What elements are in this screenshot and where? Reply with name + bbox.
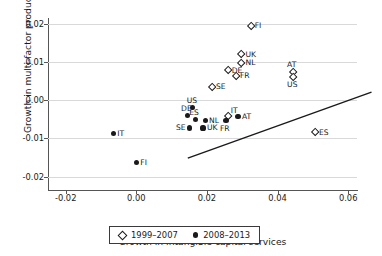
data-point-label: FI [255, 22, 262, 30]
legend-item-1[interactable]: 2008–2013 [193, 230, 250, 240]
data-point-label: US [287, 81, 297, 89]
legend-item-label: 2008–2013 [203, 230, 250, 240]
filled-circle-icon [193, 232, 198, 237]
data-point-label: ES [189, 109, 199, 117]
scatter-chart-figure: Growth in multi-factor productivity 0.02… [0, 0, 382, 256]
data-point-label: FR [240, 72, 250, 80]
filled-circle-icon [200, 125, 205, 130]
gridline-y-0 [48, 24, 357, 25]
chart-legend: 1999–20072008–2013 [109, 226, 260, 244]
data-point-label: IT [231, 107, 238, 115]
y-tick-mark-3 [44, 138, 48, 139]
data-point-label: AT [287, 61, 296, 69]
data-point-label: IT [117, 130, 124, 138]
x-tick-mark-0 [66, 190, 67, 194]
data-point-label: AT [242, 113, 251, 121]
data-point-label: SE [176, 124, 186, 132]
legend-item-0[interactable]: 1999–2007 [119, 230, 178, 240]
legend-item-label: 1999–2007 [131, 230, 178, 240]
y-tick-mark-4 [44, 177, 48, 178]
filled-circle-icon [187, 125, 192, 130]
data-point-label: FI [140, 159, 147, 167]
data-point-label: NL [246, 59, 256, 67]
y-tick-mark-0 [44, 24, 48, 25]
open-diamond-icon [118, 230, 128, 240]
filled-circle-icon [134, 160, 139, 165]
filled-circle-icon [193, 117, 198, 122]
plot-area: FIUKNLDEFRATUSSEITESUSDEESNLFRATSEUKITFI [48, 18, 357, 186]
y-tick-mark-1 [44, 62, 48, 63]
y-tick-mark-2 [44, 100, 48, 101]
x-tick-label-0: -0.02 [46, 193, 86, 203]
data-point-label: ES [319, 129, 329, 137]
data-point-label: SE [216, 83, 226, 91]
filled-circle-icon [223, 118, 228, 123]
data-point-label: FR [220, 125, 230, 133]
data-point-label: UK [246, 51, 257, 59]
data-point-label: UK [207, 124, 218, 132]
